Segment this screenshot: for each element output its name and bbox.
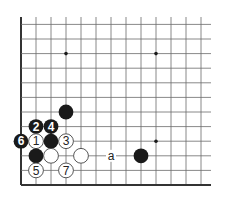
black-stone-icon (29, 148, 44, 163)
move-number: 5 (33, 164, 40, 178)
black-stone-4: 4 (44, 119, 59, 134)
white-stone (74, 148, 89, 163)
black-stone (59, 105, 74, 120)
star-point-icon (154, 139, 158, 143)
white-stone-7: 7 (59, 163, 74, 178)
black-stone-icon (134, 148, 149, 163)
move-number: 2 (33, 120, 40, 134)
white-stone-icon (44, 148, 59, 163)
black-stone (134, 148, 149, 163)
black-stone (29, 148, 44, 163)
white-stone-3: 3 (59, 134, 74, 149)
black-stone-2: 2 (29, 119, 44, 134)
move-number: 3 (63, 134, 70, 148)
move-number: 7 (63, 164, 70, 178)
black-stone-icon (59, 105, 74, 120)
white-stone (44, 148, 59, 163)
move-number: 6 (18, 134, 25, 148)
board-markers: a (106, 149, 116, 163)
move-number: 1 (33, 134, 40, 148)
move-number: 4 (48, 120, 55, 134)
star-point-icon (64, 52, 68, 56)
white-stone-icon (74, 148, 89, 163)
star-point-icon (154, 52, 158, 56)
black-stone-6: 6 (14, 134, 29, 149)
white-stone-1: 1 (29, 134, 44, 149)
black-stone-icon (44, 134, 59, 149)
white-stone-5: 5 (29, 163, 44, 178)
point-label-a: a (108, 149, 115, 163)
go-board-diagram: a 2461357 (0, 0, 227, 200)
black-stone (44, 134, 59, 149)
